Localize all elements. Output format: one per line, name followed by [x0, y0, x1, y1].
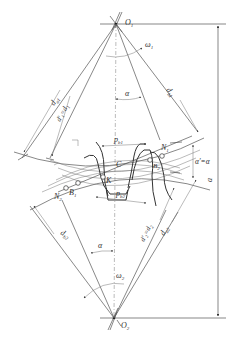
gear-meshing-diagram: a O1 O2 ω1 ω2: [0, 0, 232, 342]
label-a: a: [205, 178, 214, 182]
svg-text:N2: N2: [53, 192, 62, 202]
alpha-angle-bottom: α: [91, 241, 113, 253]
alpha-prime-angle: α′=α: [193, 145, 211, 178]
svg-text:K: K: [105, 176, 112, 185]
svg-text:α: α: [98, 241, 103, 250]
point-N1: [160, 154, 165, 159]
alpha-angle-top: α: [116, 89, 141, 100]
omega2-rotation: ω2: [84, 271, 125, 298]
rays-O2: [30, 200, 178, 318]
svg-text:B2: B2: [153, 162, 160, 171]
gear-teeth: [84, 142, 172, 206]
omega1-rotation: ω1: [106, 40, 153, 57]
svg-text:N1: N1: [160, 143, 169, 153]
point-K: [101, 175, 106, 180]
pb2-dimension: pb2: [96, 189, 146, 203]
svg-text:da1: da1: [48, 95, 61, 108]
svg-text:db2: db2: [59, 228, 72, 241]
point-B2: [148, 158, 153, 163]
svg-text:O1: O1: [125, 18, 133, 28]
svg-text:pb1: pb1: [113, 135, 123, 145]
svg-text:ω1: ω1: [145, 40, 153, 50]
point-N2: [64, 186, 69, 191]
rays-O1: [22, 24, 198, 158]
svg-text:O2: O2: [121, 321, 130, 331]
center-distance-dimension: a: [205, 26, 218, 316]
point-B1: [76, 181, 81, 186]
svg-text:pb2: pb2: [115, 189, 126, 199]
svg-text:ω2: ω2: [116, 271, 125, 281]
svg-text:db1: db1: [164, 86, 177, 99]
pb1-dimension: pb1: [102, 135, 146, 146]
svg-text:d′₂=d2: d′₂=d2: [139, 223, 155, 244]
svg-text:α: α: [125, 89, 130, 98]
svg-text:C: C: [116, 160, 122, 169]
svg-text:α′=α: α′=α: [195, 157, 211, 166]
